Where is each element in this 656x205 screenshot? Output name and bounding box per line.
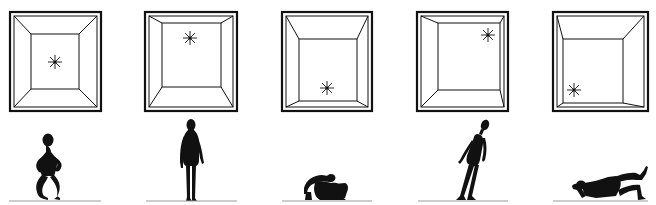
panel-4 <box>417 12 508 201</box>
panel-1 <box>9 12 101 201</box>
diagram-canvas <box>0 0 656 205</box>
figure-standing <box>180 119 204 201</box>
light-star-icon <box>183 31 197 45</box>
panel-3 <box>282 12 372 201</box>
illustration <box>0 0 656 205</box>
room-perspective-3 <box>282 12 372 111</box>
figure-crouching <box>36 134 61 201</box>
panel-2 <box>145 12 237 201</box>
room-perspective-2 <box>145 12 237 111</box>
room-perspective-4 <box>417 12 508 111</box>
light-star-icon <box>320 81 334 95</box>
room-perspective-5 <box>553 12 648 111</box>
figure-leaning <box>456 118 491 200</box>
figure-lying <box>572 166 648 200</box>
light-star-icon <box>48 55 62 69</box>
light-star-icon <box>481 28 495 42</box>
panel-5 <box>553 12 648 201</box>
figure-sitting <box>304 174 348 200</box>
light-star-icon <box>567 83 581 97</box>
